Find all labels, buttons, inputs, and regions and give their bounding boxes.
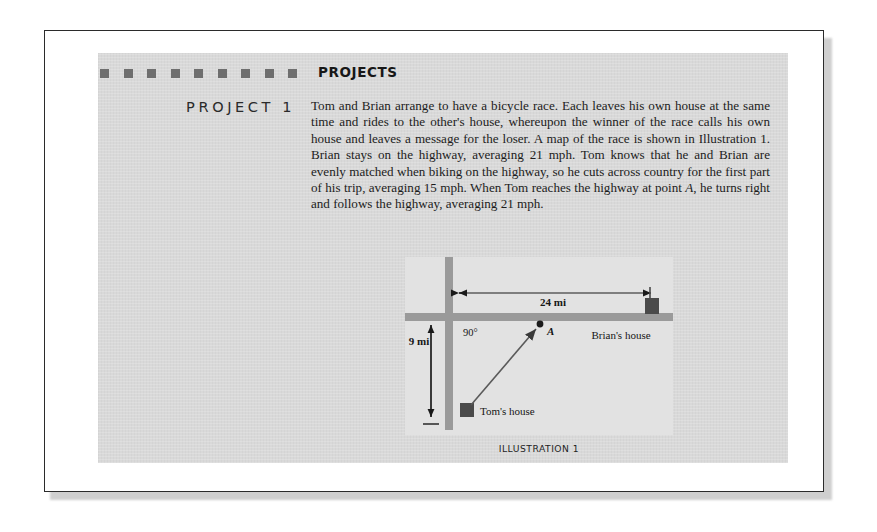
decorative-square-strip bbox=[100, 69, 297, 78]
vertical-distance-label: 9 mi bbox=[409, 335, 429, 347]
decorative-square-icon bbox=[241, 69, 250, 78]
illustration-figure: 24 mi Brian's house 9 mi 90° Tom's house… bbox=[405, 257, 673, 435]
point-a-marker bbox=[537, 321, 544, 328]
project-body-text: Tom and Brian arrange to have a bicycle … bbox=[311, 98, 770, 213]
decorative-square-icon bbox=[147, 69, 156, 78]
decorative-square-icon bbox=[124, 69, 133, 78]
illustration-caption: ILLUSTRATION 1 bbox=[405, 443, 673, 454]
projects-header: PROJECTS bbox=[100, 64, 398, 82]
horizontal-road bbox=[405, 313, 673, 321]
horizontal-distance-label: 24 mi bbox=[540, 296, 566, 308]
project-number-label: PROJECT 1 bbox=[120, 99, 295, 115]
decorative-square-icon bbox=[288, 69, 297, 78]
vertical-road bbox=[445, 257, 453, 430]
illustration: 24 mi Brian's house 9 mi 90° Tom's house… bbox=[405, 257, 673, 462]
angle-label: 90° bbox=[463, 327, 478, 338]
toms-house-label: Tom's house bbox=[480, 405, 535, 417]
decorative-square-icon bbox=[265, 69, 274, 78]
cross-country-path bbox=[471, 329, 536, 405]
decorative-square-icon bbox=[171, 69, 180, 78]
section-title: PROJECTS bbox=[318, 66, 398, 80]
brians-house-marker bbox=[645, 298, 659, 314]
point-a-label: A bbox=[546, 325, 554, 337]
decorative-square-icon bbox=[194, 69, 203, 78]
screenshot-root: PROJECTS PROJECT 1 Tom and Brian arrange… bbox=[0, 0, 877, 532]
brians-house-label: Brian's house bbox=[591, 329, 650, 341]
decorative-square-icon bbox=[100, 69, 109, 78]
decorative-square-icon bbox=[218, 69, 227, 78]
